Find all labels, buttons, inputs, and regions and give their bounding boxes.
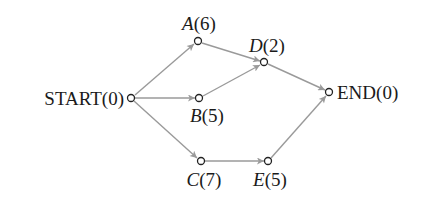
label-e: E(5) bbox=[252, 169, 287, 191]
edge-e-to-end bbox=[271, 96, 326, 158]
label-a: A(6) bbox=[180, 13, 216, 35]
edge-start-to-c bbox=[134, 101, 197, 158]
edge-b-to-d bbox=[203, 65, 260, 96]
edge-d-to-end bbox=[268, 64, 325, 90]
node-d bbox=[261, 59, 268, 66]
activity-network-diagram: START(0) A(6) B(5) C(7) D(2) E(5) END(0) bbox=[0, 0, 428, 206]
label-start: START(0) bbox=[44, 88, 124, 110]
label-end: END(0) bbox=[337, 82, 398, 104]
label-d: D(2) bbox=[248, 35, 285, 57]
node-e bbox=[265, 158, 272, 165]
node-end bbox=[326, 89, 333, 96]
node-a bbox=[195, 38, 202, 45]
edge-start-to-a bbox=[135, 44, 194, 95]
node-c bbox=[198, 158, 205, 165]
label-c: C(7) bbox=[187, 169, 222, 191]
node-start bbox=[128, 95, 135, 102]
label-b: B(5) bbox=[190, 105, 224, 127]
node-b bbox=[196, 95, 203, 102]
